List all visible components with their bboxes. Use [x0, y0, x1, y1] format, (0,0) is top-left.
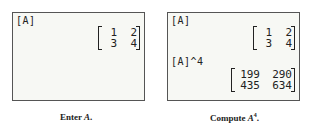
matrix-a-display: 1 2 3 4 [253, 26, 295, 50]
calculator-screen-enter-a: [A] 1 2 3 4 [12, 12, 145, 101]
matrix-name-label: [A] [171, 16, 191, 26]
caption-compute-a4: Compute A4. [210, 112, 259, 123]
caption-text: Enter [60, 112, 84, 122]
matrix-name-label: [A] [16, 16, 36, 26]
caption-punct: . [90, 112, 92, 122]
caption-enter-a: Enter A. [60, 112, 92, 122]
matrix-cell: 4 [121, 38, 137, 49]
matrix-cell: 3 [256, 38, 272, 49]
matrix-cell: 634 [266, 80, 292, 91]
matrix-a-display: 1 2 3 4 [98, 26, 140, 50]
matrix-cell: 3 [101, 38, 117, 49]
caption-punct: . [257, 113, 259, 123]
matrix-cell: 435 [234, 80, 260, 91]
caption-text: Compute [210, 113, 248, 123]
power-expression-label: [A]^4 [171, 57, 204, 67]
matrix-a4-result: 199 290 435 634 [231, 68, 295, 92]
calculator-screen-compute-a4: [A] 1 2 3 4 [A]^4 199 290 435 634 [167, 12, 300, 101]
matrix-cell: 4 [276, 38, 292, 49]
